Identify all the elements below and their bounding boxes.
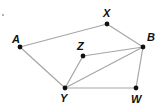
node-y [63, 86, 68, 91]
node-a [18, 45, 23, 50]
graph-diagram: AXBZYW [0, 0, 160, 112]
stray-dot [2, 14, 4, 16]
node-x [105, 22, 110, 27]
node-label-a: A [11, 33, 20, 45]
edge-a-x [20, 24, 107, 47]
edge-x-b [107, 24, 143, 47]
node-label-x: X [102, 7, 111, 19]
node-label-w: W [131, 93, 143, 105]
node-w [134, 86, 139, 91]
node-label-y: Y [60, 92, 69, 104]
edge-w-b [136, 47, 143, 88]
node-label-z: Z [76, 40, 85, 52]
node-b [141, 45, 146, 50]
node-label-b: B [147, 31, 155, 43]
node-z [81, 54, 86, 59]
edge-a-y [20, 47, 65, 88]
